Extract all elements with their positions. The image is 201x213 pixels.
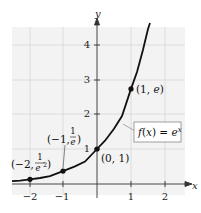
x-axis-label: x <box>192 180 198 191</box>
point-neg2 <box>27 177 32 182</box>
svg-text:): ) <box>47 158 51 170</box>
y-axis-arrow-icon <box>95 18 100 25</box>
y-tick-label: 3 <box>84 74 90 85</box>
point-label-1-e: (1, e) <box>136 83 164 95</box>
svg-text:(−1,: (−1, <box>47 133 70 145</box>
svg-text:e: e <box>70 137 75 147</box>
svg-text:): ) <box>77 133 81 145</box>
x-tick-label: −1 <box>55 191 70 202</box>
x-tick-label: 2 <box>162 191 168 202</box>
point-0 <box>94 146 99 151</box>
x-tick-label: −2 <box>23 191 38 202</box>
x-tick-label: 1 <box>128 191 134 202</box>
point-1 <box>128 86 133 91</box>
function-label: f(x) = ex <box>137 126 182 138</box>
svg-text:e: e <box>35 163 40 173</box>
y-tick-label: 2 <box>84 108 90 119</box>
exponential-chart: x y −2 −1 1 2 1 2 3 4 (1, e) (0, 1) (−1,… <box>0 0 201 213</box>
x-axis-arrow-icon <box>185 182 192 187</box>
function-callout: f(x) = ex <box>134 122 182 142</box>
svg-text:(−2,: (−2, <box>11 158 34 170</box>
svg-text:1: 1 <box>70 126 75 136</box>
point-neg1 <box>60 169 65 174</box>
point-label-0-1: (0, 1) <box>101 152 129 164</box>
y-axis-label: y <box>94 8 101 19</box>
y-tick-label: 1 <box>84 143 90 154</box>
y-tick-label: 4 <box>84 39 90 50</box>
svg-text:1: 1 <box>37 152 42 162</box>
